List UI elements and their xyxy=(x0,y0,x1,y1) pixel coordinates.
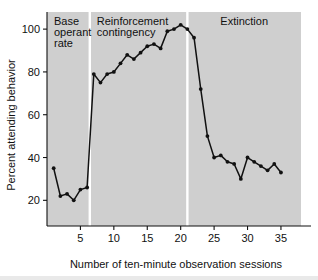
data-point xyxy=(125,53,129,57)
phase-panels xyxy=(47,12,301,226)
y-tick-label: 40 xyxy=(28,152,40,164)
data-point xyxy=(272,162,276,166)
x-tick-label: 20 xyxy=(175,232,187,244)
chart-figure: 20406080100 5101520253035 Baseoperantrat… xyxy=(0,0,318,280)
y-tick-label: 100 xyxy=(22,23,40,35)
data-point xyxy=(145,44,149,48)
data-point xyxy=(165,29,169,33)
x-tick-label: 25 xyxy=(208,232,220,244)
data-point xyxy=(58,194,62,198)
x-tick-label: 35 xyxy=(275,232,287,244)
phase-label-0: rate xyxy=(54,37,73,49)
data-point xyxy=(172,27,176,31)
data-point xyxy=(252,160,256,164)
data-point xyxy=(139,51,143,55)
phase-panel-1 xyxy=(90,12,188,226)
data-point xyxy=(112,70,116,74)
data-point xyxy=(266,168,270,172)
phase-label-2: Extinction xyxy=(220,15,268,27)
data-point xyxy=(152,42,156,46)
data-point xyxy=(199,87,203,91)
x-tick-label: 30 xyxy=(241,232,253,244)
x-tick-label: 5 xyxy=(77,232,83,244)
data-point xyxy=(246,156,250,160)
x-tick-label: 15 xyxy=(141,232,153,244)
data-point xyxy=(212,156,216,160)
data-point xyxy=(92,72,96,76)
data-point xyxy=(119,61,123,65)
data-point xyxy=(99,81,103,85)
y-tick-label: 20 xyxy=(28,194,40,206)
x-tick-label: 10 xyxy=(108,232,120,244)
data-point xyxy=(132,57,136,61)
data-point xyxy=(85,186,89,190)
y-tick-label: 80 xyxy=(28,66,40,78)
data-point xyxy=(79,188,83,192)
data-point xyxy=(52,166,56,170)
data-point xyxy=(185,27,189,31)
y-tick-label: 60 xyxy=(28,109,40,121)
data-point xyxy=(259,164,263,168)
scan-artifact xyxy=(0,276,318,280)
data-point xyxy=(232,162,236,166)
data-point xyxy=(105,72,109,76)
data-point xyxy=(159,46,163,50)
data-point xyxy=(65,192,69,196)
phase-label-1: contingency xyxy=(97,26,156,38)
data-point xyxy=(192,36,196,40)
x-axis-title: Number of ten-minute observation session… xyxy=(70,258,283,270)
data-point xyxy=(179,23,183,27)
data-point xyxy=(279,171,283,175)
y-axis-title: Percent attending behavior xyxy=(5,59,17,191)
attending-behavior-line-chart: 20406080100 5101520253035 Baseoperantrat… xyxy=(0,0,318,280)
data-point xyxy=(226,160,230,164)
data-point xyxy=(239,177,243,181)
data-point xyxy=(206,134,210,138)
data-point xyxy=(72,198,76,202)
data-point xyxy=(219,153,223,157)
